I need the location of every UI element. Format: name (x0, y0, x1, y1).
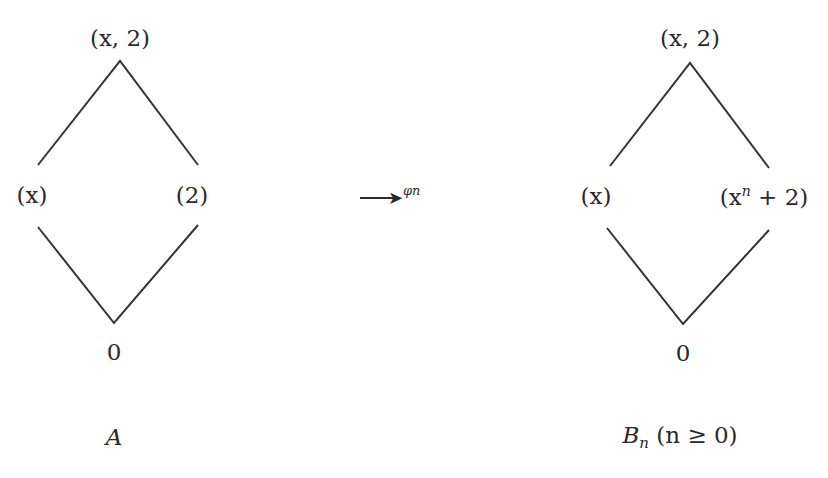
node-B-bottom: 0 (676, 342, 691, 365)
node-A-bottom: 0 (107, 341, 122, 364)
edge-A-upper (38, 61, 198, 165)
caption-B-sub: n (639, 434, 649, 452)
node-B-right-sup: n (742, 183, 751, 199)
node-A-right: (2) (176, 184, 209, 207)
node-B-top: (x, 2) (660, 27, 720, 50)
caption-B-cond: (n ≥ 0) (656, 422, 737, 448)
caption-B: Bn (n ≥ 0) (622, 424, 737, 451)
arrow-label: φn (403, 183, 420, 198)
node-B-right: (xn + 2) (720, 184, 808, 209)
morphism-arrow: ➤φn (360, 183, 420, 208)
node-A-top: (x, 2) (90, 27, 150, 50)
arrow-head-icon: ➤ (388, 187, 403, 208)
node-B-right-suffix: + 2) (751, 184, 809, 210)
node-A-left: (x) (17, 184, 48, 207)
caption-A: A (106, 426, 123, 449)
edge-A-lower (38, 225, 198, 323)
edge-B-upper (610, 63, 769, 168)
node-B-left: (x) (581, 185, 612, 208)
node-B-right-prefix: (x (720, 184, 742, 210)
caption-B-main: B (622, 422, 639, 448)
lattice-edges (0, 0, 828, 478)
edge-B-lower (607, 228, 769, 324)
